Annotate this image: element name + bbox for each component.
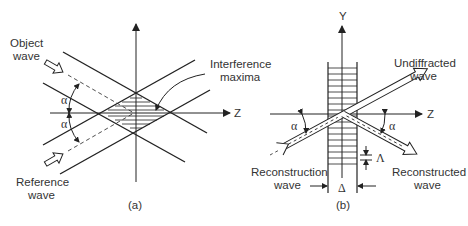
reference-wave-label-1: Reference: [16, 176, 69, 188]
lambda-label: Λ: [376, 151, 385, 165]
reference-wave-arrow-icon: [43, 149, 66, 169]
z-axis-label-b: Z: [427, 108, 434, 120]
object-propagation-dashed: [68, 75, 134, 113]
interference-pointer: [156, 74, 205, 110]
alpha-lower-a: α: [61, 117, 68, 131]
reference-wavefront-2: [60, 90, 210, 174]
y-axis-label-b: Y: [339, 10, 347, 22]
alpha-left-b: α: [291, 119, 298, 133]
alpha-upper-a: α: [61, 93, 68, 107]
angle-arc-upper: [69, 84, 79, 113]
undiffracted-label-1: Undiffracted: [394, 57, 456, 69]
z-axis-label-a: Z: [234, 107, 241, 119]
hologram-diagram: Object wave Reference wave Interference …: [0, 0, 468, 226]
interference-label-2: maxima: [220, 71, 261, 83]
object-wave-label-2: wave: [12, 50, 40, 62]
panel-a: Object wave Reference wave Interference …: [10, 24, 271, 211]
angle-arc-right-b: [381, 114, 385, 133]
delta-label: Δ: [338, 181, 346, 195]
object-wave-arrow-icon: [43, 57, 66, 77]
interference-label-1: Interference: [210, 58, 271, 70]
caption-a: (a): [128, 199, 142, 211]
reconstructed-label-1: Reconstructed: [392, 166, 466, 178]
reconstruction-label-1: Reconstruction: [251, 166, 328, 178]
undiffracted-wave-arrow-icon: [276, 63, 430, 155]
caption-b: (b): [336, 199, 350, 211]
reconstruction-label-2: wave: [273, 179, 301, 191]
panel-b: Y Z Undiffracted wave Reconstruction wav…: [251, 10, 466, 211]
object-wave-label-1: Object: [10, 37, 44, 49]
alpha-right-b: α: [389, 119, 396, 133]
undiffracted-label-2: wave: [409, 70, 437, 82]
reconstructed-label-2: wave: [413, 179, 441, 191]
object-wavefront-1: [63, 52, 207, 133]
reference-wave-label-2: wave: [27, 189, 55, 201]
reference-propagation-dashed: [68, 113, 134, 151]
angle-arc-left-b: [302, 114, 306, 133]
